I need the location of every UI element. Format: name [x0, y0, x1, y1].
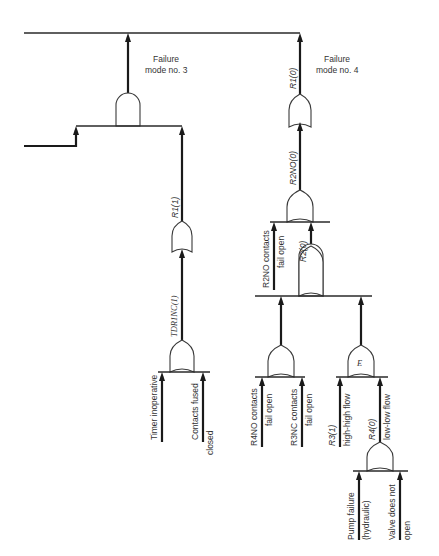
fm4-label-line2: mode no. 4	[316, 65, 359, 75]
r1-0-label: R1(0)	[288, 68, 298, 89]
and-gate-icon	[116, 93, 140, 126]
high-high-flow-label: high-high flow	[342, 393, 352, 446]
arrow-icon	[179, 249, 185, 258]
arrow-icon	[73, 126, 79, 135]
arrow-icon	[337, 377, 343, 386]
failure-mode-4-branch: E	[255, 33, 408, 540]
arrow-icon	[179, 126, 185, 135]
or-gate-icon	[172, 221, 192, 252]
arrow-icon	[278, 296, 284, 305]
e-gate-label: E	[356, 358, 363, 368]
timer-inoperative-label: Timer inoperative	[149, 374, 159, 440]
open-label: open	[402, 521, 412, 540]
r4no-contacts-label: R4NO contacts	[249, 388, 259, 446]
fail-open-label: fail open	[264, 394, 274, 426]
tdr1nc-label: TDR1NC(1)	[169, 295, 179, 337]
fm3-label-line2: mode no. 3	[145, 65, 188, 75]
fault-tree-diagram: E Failure mode no. 3 Failure mode no. 4 …	[0, 0, 439, 556]
fm4-label-line1: Failure	[324, 54, 350, 64]
arrow-icon	[397, 471, 403, 480]
arrow-icon	[308, 222, 314, 231]
r2no-contacts-label: R2NO contacts	[261, 230, 271, 288]
arrow-icon	[200, 372, 206, 381]
hydraulic-label: (hydraulic)	[361, 500, 371, 540]
or-gate-icon	[367, 442, 393, 471]
arrow-icon	[297, 33, 303, 42]
arrow-icon	[125, 33, 131, 42]
closed-label: closed	[205, 430, 215, 455]
or-gate-icon	[170, 340, 194, 372]
failure-mode-3-branch	[24, 33, 210, 442]
fail-open-label: fail open	[304, 394, 314, 426]
r2-0-label: R2(0)	[298, 241, 308, 262]
pump-failure-label: Pump failure	[346, 492, 356, 540]
r4-0-label: R4(0)	[367, 419, 377, 440]
r2no-0-label: R2NO(0)	[288, 151, 298, 185]
low-low-flow-label: low-low flow	[382, 393, 392, 440]
arrow-icon	[271, 222, 277, 231]
arrow-icon	[159, 372, 165, 381]
arrow-icon	[377, 377, 383, 386]
r3nc-contacts-label: R3NC contacts	[289, 389, 299, 446]
fm3-left-input-line	[24, 130, 76, 146]
r3-1-label: R3(1)	[327, 425, 337, 446]
fail-open-label: fail open	[276, 236, 286, 268]
arrow-icon	[299, 377, 305, 386]
arrow-icon	[356, 471, 362, 480]
fm3-label-line1: Failure	[153, 54, 179, 64]
valve-does-not-label: Valve does not	[387, 484, 397, 540]
or-gate-icon	[287, 190, 313, 222]
or-gate-icon	[268, 345, 294, 377]
r1-1-label: R1(1)	[170, 197, 180, 218]
arrow-icon	[358, 296, 364, 305]
arrow-icon	[259, 377, 265, 386]
contacts-fused-label: Contacts fused	[190, 383, 200, 440]
